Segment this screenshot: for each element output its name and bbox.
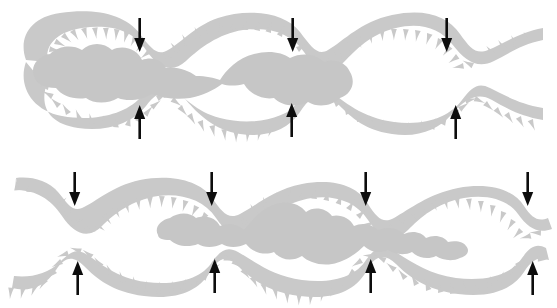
figure-canvas: [0, 0, 557, 308]
intestinal-segmentation-figure: [0, 0, 557, 308]
